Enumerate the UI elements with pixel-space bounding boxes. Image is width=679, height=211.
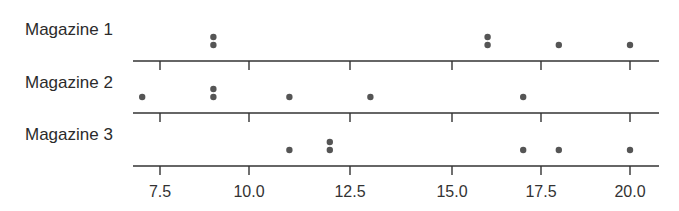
data-dot (627, 42, 633, 48)
data-dot (210, 94, 216, 100)
dot-plot-chart: 7.510.012.515.017.520.0 (0, 0, 679, 211)
tick-labels-group: 7.510.012.515.017.520.0 (149, 183, 646, 200)
data-dot (327, 147, 333, 153)
dots-group (139, 34, 633, 153)
x-tick-label: 20.0 (614, 183, 645, 200)
data-dot (556, 147, 562, 153)
data-dot (367, 94, 373, 100)
x-tick-label: 17.5 (525, 183, 556, 200)
data-dot (210, 42, 216, 48)
data-dot (520, 147, 526, 153)
data-dot (627, 147, 633, 153)
data-dot (210, 86, 216, 92)
x-tick-label: 7.5 (149, 183, 171, 200)
x-tick-label: 10.0 (233, 183, 264, 200)
x-tick-label: 12.5 (334, 183, 365, 200)
data-dot (484, 34, 490, 40)
data-dot (556, 42, 562, 48)
data-dot (286, 94, 292, 100)
data-dot (327, 139, 333, 145)
axes-group (133, 61, 659, 175)
x-tick-label: 15.0 (436, 183, 467, 200)
data-dot (520, 94, 526, 100)
data-dot (484, 42, 490, 48)
data-dot (210, 34, 216, 40)
data-dot (286, 147, 292, 153)
data-dot (139, 94, 145, 100)
